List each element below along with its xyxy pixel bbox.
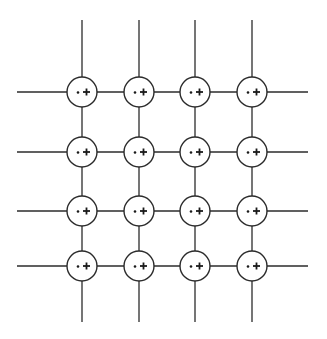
node-circle-icon [237,137,267,167]
node-circle-icon [124,77,154,107]
dot-icon [247,210,250,213]
dot-icon [134,265,137,268]
lattice-node [237,77,267,107]
lattice-node [67,77,97,107]
lattice-node [237,196,267,226]
dot-icon [134,151,137,154]
dot-icon [134,91,137,94]
lattice-node [180,251,210,281]
node-circle-icon [180,251,210,281]
node-circle-icon [67,77,97,107]
node-circle-icon [67,196,97,226]
dot-icon [77,151,80,154]
node-circle-icon [180,137,210,167]
node-circle-icon [180,196,210,226]
node-circle-icon [124,137,154,167]
dot-icon [247,151,250,154]
lattice-node [124,77,154,107]
dot-icon [190,91,193,94]
lattice-node [237,251,267,281]
dot-icon [190,210,193,213]
lattice-node [180,77,210,107]
node-circle-icon [237,77,267,107]
node-circle-icon [124,251,154,281]
lattice-node [67,196,97,226]
dot-icon [190,151,193,154]
node-circle-icon [180,77,210,107]
dot-icon [77,265,80,268]
grid-nodes [67,77,267,281]
lattice-node [67,251,97,281]
lattice-node [124,251,154,281]
grid-lines [17,20,308,322]
dot-icon [247,91,250,94]
lattice-node [180,137,210,167]
node-circle-icon [67,137,97,167]
dot-icon [134,210,137,213]
dot-icon [190,265,193,268]
node-circle-icon [124,196,154,226]
node-circle-icon [237,251,267,281]
node-circle-icon [67,251,97,281]
dot-icon [77,210,80,213]
lattice-node [124,137,154,167]
lattice-node [67,137,97,167]
lattice-node [124,196,154,226]
lattice-diagram [0,0,327,339]
dot-icon [77,91,80,94]
node-circle-icon [237,196,267,226]
dot-icon [247,265,250,268]
lattice-node [237,137,267,167]
lattice-node [180,196,210,226]
